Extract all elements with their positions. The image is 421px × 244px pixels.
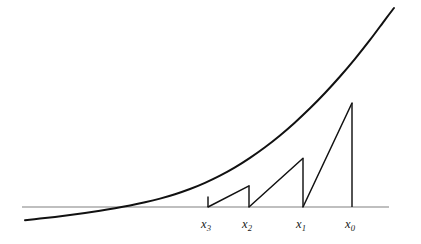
axis-label-x0: x0 bbox=[345, 218, 355, 231]
axis-label-x1-base: x bbox=[296, 217, 302, 231]
tangent-group bbox=[208, 103, 352, 207]
function-curve-path bbox=[25, 8, 394, 220]
axis-label-x3-base: x bbox=[201, 217, 207, 231]
tangent-at-x1-line bbox=[249, 158, 303, 207]
tangent-at-x0-line bbox=[303, 103, 352, 207]
curve-group bbox=[25, 8, 394, 220]
axis-label-x3-subscript: 3 bbox=[207, 223, 211, 233]
figure-canvas bbox=[0, 0, 421, 244]
axis-label-x2: x2 bbox=[242, 218, 252, 231]
axis-label-x1: x1 bbox=[296, 218, 306, 231]
ordinate-group bbox=[208, 103, 352, 207]
axis-label-x3: x3 bbox=[201, 218, 211, 231]
axis-label-x0-base: x bbox=[345, 217, 351, 231]
axis-label-x2-subscript: 2 bbox=[248, 223, 252, 233]
axis-label-x2-base: x bbox=[242, 217, 248, 231]
axis-label-x1-subscript: 1 bbox=[302, 223, 306, 233]
axis-label-x0-subscript: 0 bbox=[351, 223, 355, 233]
tangent-at-x2-line bbox=[208, 186, 249, 207]
newton-method-figure: x3 x2 x1 x0 bbox=[0, 0, 421, 244]
